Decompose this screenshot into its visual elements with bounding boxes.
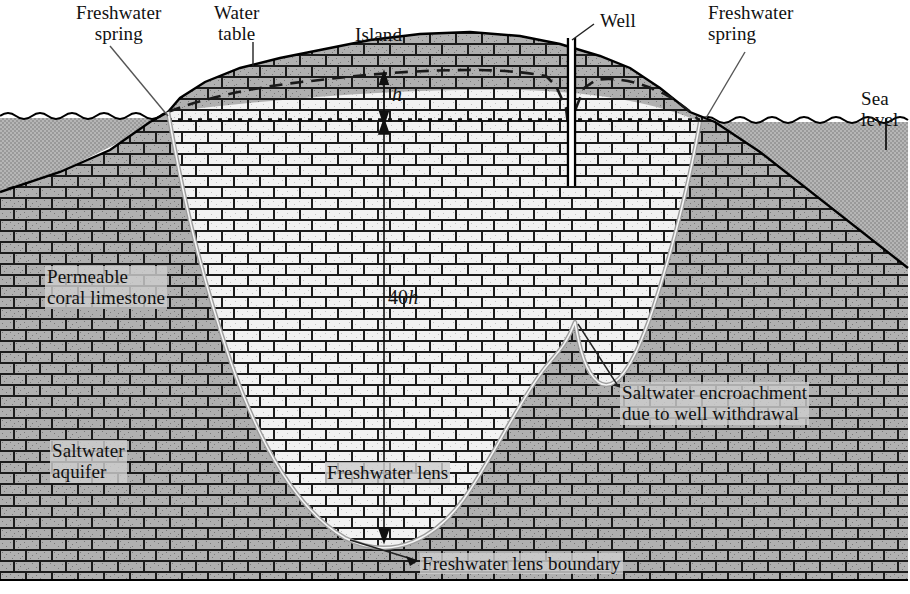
leader-freshwater-spring-right (706, 52, 745, 118)
label-island: Island (355, 24, 402, 45)
leader-well (572, 24, 594, 40)
freshwater-lens-figure: Freshwaterspring Watertable Island Well … (0, 0, 910, 594)
label-well: Well (600, 10, 636, 31)
leader-freshwater-spring-left (110, 46, 168, 116)
label-freshwater-lens: Freshwater lens (325, 462, 450, 483)
label-freshwater-spring-left: Freshwaterspring (76, 2, 161, 45)
label-forty-h: 40h (388, 286, 418, 308)
label-saltwater-encroachment: Saltwater encroachmentdue to well withdr… (620, 382, 809, 425)
well-casing (568, 38, 575, 186)
label-freshwater-spring-right: Freshwaterspring (708, 2, 793, 45)
label-h: h (392, 83, 402, 105)
label-water-table: Watertable (214, 2, 259, 45)
label-freshwater-lens-boundary: Freshwater lens boundary (420, 553, 623, 574)
label-sea-level: Sealevel (861, 88, 898, 131)
label-saltwater-aquifer: Saltwateraquifer (50, 440, 127, 483)
forty-h-text: 40h (388, 286, 418, 308)
label-permeable-coral-limestone: Permeablecoral limestone (45, 266, 167, 309)
